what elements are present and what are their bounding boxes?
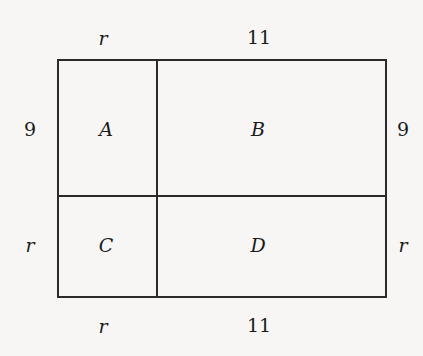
region-c: C	[99, 236, 114, 255]
left-label-top: 9	[24, 120, 36, 139]
region-d: D	[250, 236, 265, 255]
bottom-label-left: r	[98, 317, 107, 336]
rect-bottom-edge	[57, 296, 387, 298]
vertical-divider	[156, 59, 158, 298]
rect-top-edge	[57, 59, 387, 61]
top-label-left: r	[98, 29, 107, 48]
region-b: B	[251, 120, 265, 139]
rect-right-edge	[385, 59, 387, 298]
right-label-bottom: r	[398, 236, 407, 255]
bottom-label-right: 11	[247, 316, 271, 335]
region-a: A	[99, 120, 113, 139]
left-label-bottom: r	[25, 236, 34, 255]
top-label-right: 11	[247, 28, 271, 47]
rect-left-edge	[57, 59, 59, 298]
right-label-top: 9	[397, 120, 409, 139]
horizontal-divider	[57, 195, 387, 197]
